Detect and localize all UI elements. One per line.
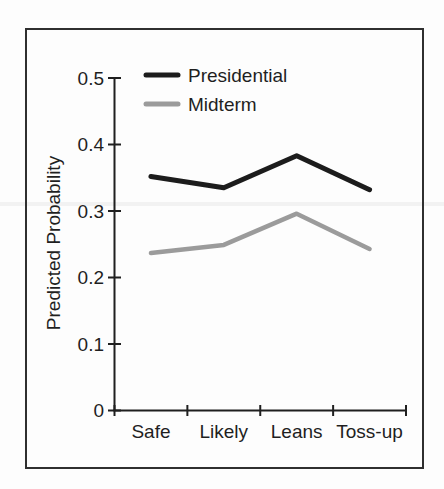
y-axis-title: Predicted Probability — [43, 155, 64, 330]
y-tick-label-0.2: 0.2 — [78, 267, 104, 288]
y-tick-label-0.5: 0.5 — [78, 68, 104, 89]
x-category-label-safe: Safe — [131, 421, 170, 442]
x-category-label-likely: Likely — [200, 421, 249, 442]
y-tick-label-0: 0 — [93, 400, 104, 421]
legend-label-presidential: Presidential — [188, 65, 287, 86]
line-chart: 00.10.20.30.40.5SafeLikelyLeansToss-upPr… — [0, 0, 444, 489]
y-tick-label-0.4: 0.4 — [78, 134, 105, 155]
y-tick-label-0.3: 0.3 — [78, 201, 104, 222]
legend-label-midterm: Midterm — [188, 94, 257, 115]
y-tick-label-0.1: 0.1 — [78, 334, 104, 355]
series-line-presidential — [151, 156, 370, 190]
series-line-midterm — [151, 214, 370, 253]
x-category-label-leans: Leans — [271, 421, 323, 442]
figure-canvas: 00.10.20.30.40.5SafeLikelyLeansToss-upPr… — [0, 0, 444, 489]
x-category-label-toss-up: Toss-up — [336, 421, 403, 442]
